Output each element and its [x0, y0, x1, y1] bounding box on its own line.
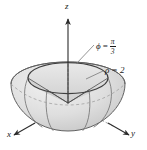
z-axis-label: z	[65, 2, 69, 11]
x-axis	[14, 123, 35, 135]
phi-symbol: ϕ	[96, 42, 101, 51]
spherical-coordinates-diagram: z x y ϕ = π 3 ρ = 2	[0, 0, 147, 150]
x-axis-label: x	[7, 130, 11, 139]
fraction-denominator: 3	[110, 47, 116, 55]
phi-equation-label: ϕ = π 3	[96, 38, 116, 55]
pi-over-three-fraction: π 3	[110, 38, 116, 55]
fraction-numerator: π	[110, 38, 116, 46]
y-axis	[108, 123, 129, 135]
y-axis-label: y	[131, 129, 135, 138]
rho-equation-label: ρ = 2	[105, 66, 124, 75]
diagram-canvas	[0, 0, 147, 150]
phi-leader-line	[76, 45, 94, 64]
phi-equals-sign: =	[103, 42, 108, 51]
